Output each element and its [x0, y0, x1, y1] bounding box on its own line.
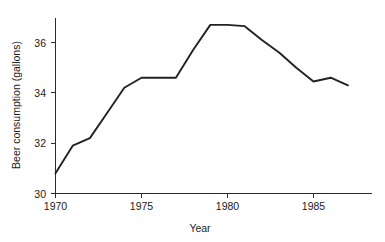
y-axis-title: Beer consumption (gallons) — [10, 41, 22, 169]
y-axis-ticks — [51, 43, 56, 194]
y-tick-label-36: 36 — [34, 37, 46, 49]
y-tick-label-30: 30 — [34, 188, 46, 200]
x-tick-label-1985: 1985 — [302, 200, 326, 212]
x-axis-ticks — [56, 194, 314, 199]
y-tick-label-34: 34 — [34, 87, 46, 99]
chart-container: 36 34 32 30 1970 1975 1980 1985 Year Bee… — [0, 0, 385, 242]
x-tick-label-1980: 1980 — [216, 200, 240, 212]
line-chart: 36 34 32 30 1970 1975 1980 1985 Year Bee… — [0, 0, 385, 242]
x-tick-label-1970: 1970 — [44, 200, 68, 212]
data-line-beer-consumption — [56, 25, 348, 173]
x-tick-label-1975: 1975 — [130, 200, 154, 212]
x-axis-title: Year — [189, 222, 211, 234]
y-tick-label-32: 32 — [34, 137, 46, 149]
